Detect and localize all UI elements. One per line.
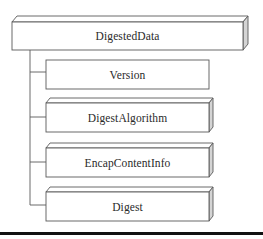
bottom-rule	[0, 232, 263, 235]
child-box-encapcontentinfo	[46, 143, 213, 177]
child-box-digest	[46, 187, 213, 221]
child-box-digestalgorithm	[46, 98, 213, 132]
root-box-digesteddata	[12, 16, 248, 50]
diagram-canvas: DigestedData Version DigestAlgorithm Enc…	[0, 0, 263, 239]
child-box-version	[46, 60, 209, 89]
